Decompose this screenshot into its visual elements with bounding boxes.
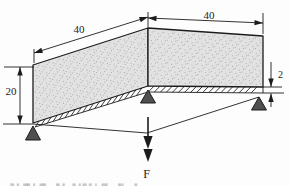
dimension-40-right: 40 (148, 9, 263, 25)
bent-plate-diagram: 40 40 20 2 F (0, 0, 290, 186)
dimension-2: 2 (268, 62, 283, 107)
dimension-40-right-label: 40 (204, 9, 216, 21)
figure-canvas: 40 40 20 2 F (0, 0, 290, 186)
force-label: F (143, 167, 150, 181)
plan-line-right (147, 97, 259, 133)
dimension-20: 20 (6, 67, 23, 124)
force-arrow: F (143, 117, 152, 181)
right-plate (148, 28, 263, 87)
dimension-20-label: 20 (6, 85, 18, 97)
left-plate (33, 28, 148, 123)
dimension-2-label: 2 (278, 69, 283, 80)
pin-support-left (26, 126, 41, 140)
cropped-caption-fragment (10, 183, 137, 186)
plan-line-left (33, 124, 147, 133)
dimension-40-left-label: 40 (74, 23, 86, 35)
